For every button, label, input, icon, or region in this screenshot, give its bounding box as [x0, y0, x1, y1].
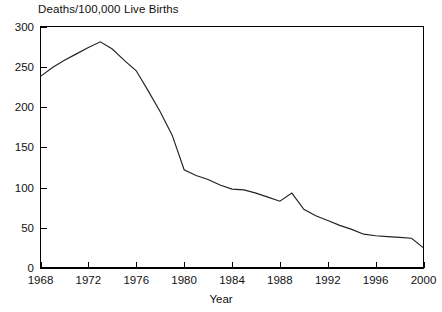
plot-frame: [41, 27, 424, 269]
y-axis-ticks: [41, 28, 47, 269]
x-axis-tick-label: 2000: [394, 274, 442, 286]
y-axis-tick-label: 0: [0, 262, 34, 274]
y-axis-tick-label: 200: [0, 101, 34, 113]
x-axis-ticks: [42, 262, 425, 268]
y-axis-tick-label: 150: [0, 141, 34, 153]
y-axis-tick-label: 100: [0, 182, 34, 194]
y-axis-tick-label: 50: [0, 222, 34, 234]
data-series-line: [41, 42, 424, 248]
chart-container: Deaths/100,000 Live Births 0501001502002…: [0, 0, 442, 312]
y-axis-tick-label: 300: [0, 21, 34, 33]
x-axis-label: Year: [0, 292, 442, 306]
y-axis-tick-label: 250: [0, 61, 34, 73]
plot-area: [0, 0, 442, 312]
